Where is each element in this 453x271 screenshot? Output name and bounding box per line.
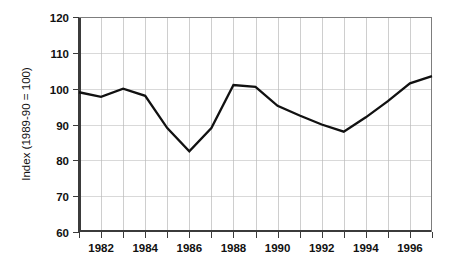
x-tick-label-1992: 1992 xyxy=(309,242,335,254)
x-tick-label-1982: 1982 xyxy=(88,242,114,254)
y-tick-label-60: 60 xyxy=(56,227,69,239)
y-tick-label-100: 100 xyxy=(50,84,69,96)
line-chart: 60708090100110120 1982198419861988199019… xyxy=(0,0,453,271)
y-tick-label-70: 70 xyxy=(56,191,69,203)
y-tick-label-90: 90 xyxy=(56,120,69,132)
x-tick-label-1984: 1984 xyxy=(132,242,158,254)
x-tick-label-1986: 1986 xyxy=(177,242,203,254)
x-tick-label-1988: 1988 xyxy=(221,242,247,254)
x-tick-label-1990: 1990 xyxy=(265,242,291,254)
y-tick-label-110: 110 xyxy=(50,48,69,60)
chart-figure: 60708090100110120 1982198419861988199019… xyxy=(0,0,453,271)
plot-area xyxy=(79,17,432,232)
y-tick-label-80: 80 xyxy=(56,155,69,167)
y-tick-label-120: 120 xyxy=(50,12,69,24)
y-axis-title: Index (1989-90 = 100) xyxy=(20,67,32,181)
x-tick-label-1996: 1996 xyxy=(397,242,423,254)
x-tick-label-1994: 1994 xyxy=(353,242,379,254)
